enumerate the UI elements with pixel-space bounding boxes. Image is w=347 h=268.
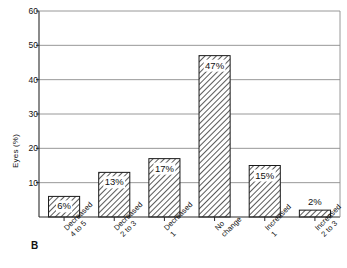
data-labels: 6%13%17%47%15%2% [56, 60, 322, 213]
bar-value-label: 6% [57, 200, 71, 211]
y-tick-label: 10 [16, 179, 38, 187]
bar [199, 56, 230, 217]
bar-value-label: 17% [155, 163, 175, 174]
gridlines [39, 45, 340, 182]
panel-label: B [31, 240, 38, 251]
bar-value-label: 13% [105, 176, 125, 187]
y-axis-title: Eyes (%) [11, 134, 20, 168]
bar-value-label: 2% [308, 196, 322, 207]
bar-value-label: 47% [205, 60, 225, 71]
y-tick-label: 50 [16, 41, 38, 49]
y-tick-label: 40 [16, 76, 38, 84]
y-tick-label: 30 [16, 110, 38, 118]
bar-value-label: 15% [255, 170, 275, 181]
y-tick-label: 60 [16, 7, 38, 15]
